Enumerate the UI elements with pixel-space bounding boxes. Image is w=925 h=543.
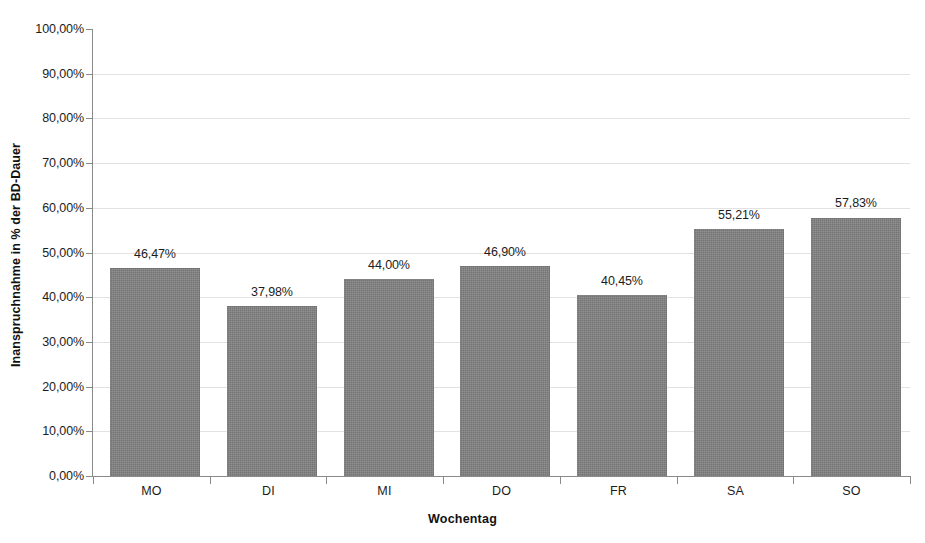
gridline xyxy=(93,118,910,119)
y-axis-tick-label: 0,00% xyxy=(6,469,84,483)
y-axis-tick xyxy=(86,74,93,75)
x-axis-tick-label: SO xyxy=(793,484,910,498)
bar-value-label: 44,00% xyxy=(344,258,434,272)
y-axis-tick-label: 80,00% xyxy=(6,111,84,125)
x-axis-tick xyxy=(443,477,444,484)
bar-value-label: 46,47% xyxy=(110,247,200,261)
y-axis-tick-label: 60,00% xyxy=(6,201,84,215)
x-axis-tick xyxy=(677,477,678,484)
bar xyxy=(460,266,550,476)
y-axis-tick xyxy=(86,118,93,119)
x-axis-tick xyxy=(93,477,94,484)
y-axis-tick xyxy=(86,476,93,477)
y-axis-tick-labels: 0,00%10,00%20,00%30,00%40,00%50,00%60,00… xyxy=(0,0,84,543)
x-axis-tick-label: DO xyxy=(443,484,560,498)
bar-value-label: 46,90% xyxy=(460,245,550,259)
bar-value-label: 40,45% xyxy=(577,274,667,288)
y-axis-tick xyxy=(86,163,93,164)
y-axis-tick xyxy=(86,208,93,209)
x-axis-tick-label: MI xyxy=(326,484,443,498)
x-axis-tick xyxy=(210,477,211,484)
y-axis-tick-label: 40,00% xyxy=(6,290,84,304)
gridline xyxy=(93,74,910,75)
y-axis-tick-label: 30,00% xyxy=(6,335,84,349)
y-axis-tick xyxy=(86,342,93,343)
x-axis-tick-label: FR xyxy=(560,484,677,498)
y-axis-tick-label: 90,00% xyxy=(6,67,84,81)
y-axis-tick xyxy=(86,29,93,30)
bar-value-label: 55,21% xyxy=(694,208,784,222)
x-axis-tick-label: MO xyxy=(93,484,210,498)
x-axis-tick xyxy=(793,477,794,484)
gridline xyxy=(93,163,910,164)
bar xyxy=(227,306,317,476)
y-axis-tick xyxy=(86,387,93,388)
bar xyxy=(811,218,901,477)
x-axis-tick-label: DI xyxy=(210,484,327,498)
y-axis-tick-label: 10,00% xyxy=(6,424,84,438)
x-axis-tick xyxy=(560,477,561,484)
x-axis-tick xyxy=(326,477,327,484)
gridline xyxy=(93,208,910,209)
bar-value-label: 37,98% xyxy=(227,285,317,299)
plot-area: 46,47%37,98%44,00%46,90%40,45%55,21%57,8… xyxy=(93,29,910,476)
y-axis-tick-label: 70,00% xyxy=(6,156,84,170)
x-axis-tick xyxy=(910,477,911,484)
bar xyxy=(577,295,667,476)
x-axis-tick-label: SA xyxy=(677,484,794,498)
x-axis-title: Wochentag xyxy=(0,512,925,526)
x-axis-line xyxy=(93,476,911,477)
y-axis-tick xyxy=(86,253,93,254)
bar-value-label: 57,83% xyxy=(811,196,901,210)
y-axis-tick xyxy=(86,297,93,298)
bar xyxy=(694,229,784,476)
bar-chart: Inanspruchnahme in % der BD-Dauer 0,00%1… xyxy=(0,0,925,543)
y-axis-tick-label: 100,00% xyxy=(6,22,84,36)
bar xyxy=(344,279,434,476)
y-axis-tick-label: 20,00% xyxy=(6,380,84,394)
y-axis-tick xyxy=(86,431,93,432)
y-axis-tick-label: 50,00% xyxy=(6,246,84,260)
bar xyxy=(110,268,200,476)
